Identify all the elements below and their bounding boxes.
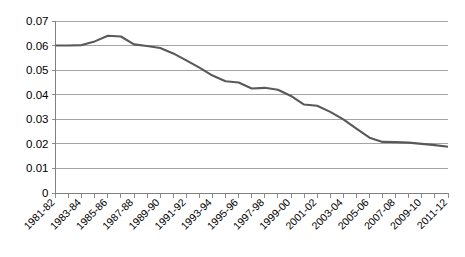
y-axis-label: 0.06: [26, 40, 48, 52]
y-axis-label: 0.03: [26, 113, 48, 125]
line-chart: 0.070.060.050.040.030.020.010 1981-82198…: [0, 0, 465, 257]
gridlines-group: [56, 21, 449, 193]
y-axis-label: 0.07: [26, 15, 48, 27]
y-axis-label: 0.04: [26, 89, 49, 101]
y-axis-labels-group: 0.070.060.050.040.030.020.010: [26, 15, 49, 199]
y-axis-label: 0.05: [26, 64, 48, 76]
y-axis-label: 0.02: [26, 138, 48, 150]
chart-canvas: 0.070.060.050.040.030.020.010 1981-82198…: [0, 0, 465, 257]
y-tick-marks-group: [52, 21, 56, 193]
data-series-line: [56, 36, 449, 147]
x-axis-labels-group: 1981-821983-841985-861987-881989-901991-…: [21, 196, 449, 232]
y-axis-label: 0.01: [26, 162, 48, 174]
